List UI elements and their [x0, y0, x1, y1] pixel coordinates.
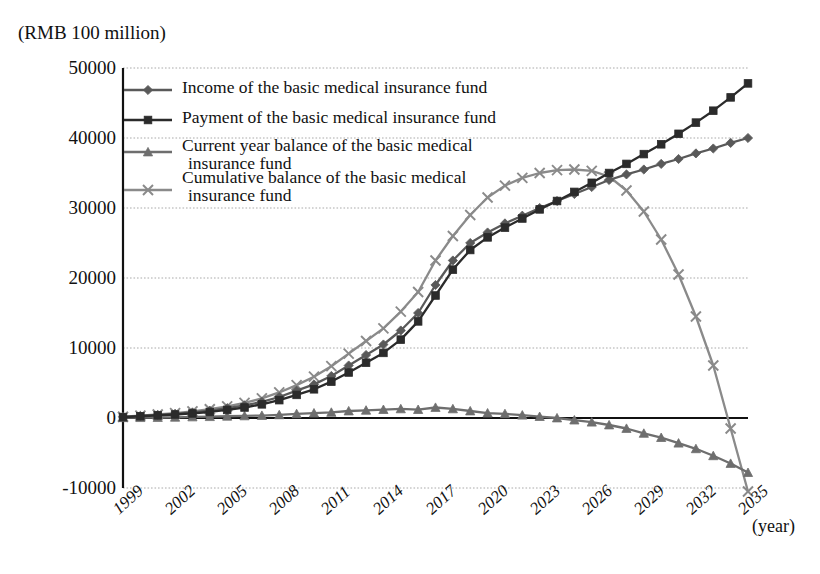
- data-point-marker-cross-icon: [483, 193, 493, 203]
- legend-item-4[interactable]: Cumulative balance of the basic medicali…: [182, 169, 466, 205]
- data-point-marker-diamond-icon: [726, 138, 735, 147]
- data-point-marker-square-icon: [640, 150, 648, 158]
- data-point-marker-cross-icon: [326, 361, 336, 371]
- legend-label-line1: Current year balance of the basic medica…: [182, 135, 473, 155]
- data-point-marker-diamond-icon: [657, 159, 666, 168]
- data-point-marker-square-icon: [727, 94, 735, 102]
- data-point-marker-diamond-icon: [674, 154, 683, 163]
- data-point-marker-diamond-icon: [743, 133, 752, 142]
- data-point-marker-diamond-icon: [622, 170, 631, 179]
- chart-container: (RMB 100 million) 5000040000300002000010…: [0, 0, 820, 574]
- data-point-marker-cross-icon: [361, 336, 371, 346]
- legend-label-line1: Cumulative balance of the basic medical: [182, 167, 466, 187]
- data-point-marker-cross-icon: [448, 231, 458, 241]
- legend-label-line2: insurance fund: [182, 187, 466, 205]
- data-point-marker-square-icon: [744, 80, 752, 88]
- data-point-marker-square-icon: [675, 130, 683, 138]
- data-point-marker-square-icon: [414, 318, 422, 326]
- series-4: [118, 165, 753, 497]
- data-point-marker-square-icon: [293, 391, 301, 399]
- data-point-marker-square-icon: [275, 396, 283, 404]
- data-point-marker-cross-icon: [465, 210, 475, 220]
- data-point-marker-diamond-icon: [709, 144, 718, 153]
- series-line: [123, 83, 748, 417]
- data-point-marker-triangle-icon: [743, 468, 752, 477]
- data-point-marker-square-icon: [588, 179, 596, 187]
- data-point-marker-square-icon: [519, 215, 527, 223]
- data-point-marker-cross-icon: [431, 256, 441, 266]
- data-point-marker-cross-icon: [691, 312, 701, 322]
- data-point-marker-square-icon: [223, 406, 231, 414]
- data-point-marker-cross-icon: [621, 186, 631, 196]
- data-point-marker-square-icon: [241, 404, 249, 412]
- data-point-marker-square-icon: [119, 413, 127, 421]
- data-point-marker-square-icon: [328, 378, 336, 386]
- data-point-marker-square-icon: [553, 197, 561, 205]
- data-point-marker-square-icon: [466, 246, 474, 254]
- legend-label: Payment of the basic medical insurance f…: [182, 107, 496, 127]
- data-point-marker-cross-icon: [639, 207, 649, 217]
- data-point-marker-cross-icon: [674, 270, 684, 280]
- data-point-marker-cross-icon: [344, 349, 354, 359]
- legend-item-2[interactable]: Payment of the basic medical insurance f…: [182, 109, 496, 127]
- data-point-marker-square-icon: [137, 412, 145, 420]
- data-point-marker-square-icon: [397, 336, 405, 344]
- series-2: [119, 80, 752, 421]
- data-point-marker-square-icon: [171, 411, 179, 419]
- data-point-marker-square-icon: [449, 266, 457, 274]
- data-point-marker-square-icon: [189, 410, 197, 418]
- data-point-marker-diamond-icon: [639, 165, 648, 174]
- data-point-marker-square-icon: [692, 119, 700, 127]
- data-point-marker-diamond-icon: [691, 149, 700, 158]
- data-point-marker-square-icon: [536, 206, 544, 214]
- legend-label: Income of the basic medical insurance fu…: [182, 77, 487, 97]
- data-point-marker-square-icon: [623, 160, 631, 168]
- data-point-marker-square-icon: [605, 169, 613, 177]
- data-point-marker-square-icon: [206, 408, 214, 416]
- data-point-marker-cross-icon: [396, 307, 406, 317]
- data-point-marker-square-icon: [571, 188, 579, 196]
- data-point-marker-square-icon: [345, 369, 353, 377]
- data-point-marker-square-icon: [709, 107, 717, 115]
- data-point-marker-square-icon: [154, 412, 162, 420]
- data-point-marker-cross-icon: [656, 235, 666, 245]
- data-point-marker-square-icon: [657, 141, 665, 149]
- data-point-marker-square-icon: [432, 292, 440, 300]
- data-point-marker-cross-icon: [413, 287, 423, 297]
- data-point-marker-square-icon: [501, 224, 509, 232]
- data-point-marker-cross-icon: [378, 323, 388, 333]
- gridlines: [123, 68, 748, 488]
- legend-item-1[interactable]: Income of the basic medical insurance fu…: [182, 79, 487, 97]
- data-point-marker-square-icon: [484, 234, 492, 242]
- data-point-marker-square-icon: [362, 359, 370, 367]
- data-point-marker-square-icon: [258, 401, 266, 409]
- data-point-marker-square-icon: [380, 349, 388, 357]
- series-line: [123, 170, 748, 492]
- data-point-marker-cross-icon: [500, 181, 510, 191]
- data-point-marker-square-icon: [310, 386, 318, 394]
